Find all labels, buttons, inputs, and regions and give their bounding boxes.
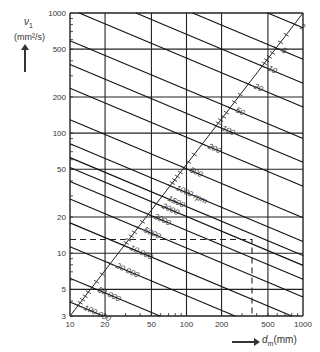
svg-text:200: 200 — [215, 320, 229, 329]
reference-dashed-line — [70, 240, 252, 316]
svg-text:100: 100 — [180, 320, 194, 329]
svg-text:200: 200 — [206, 141, 223, 155]
svg-text:50 000: 50 000 — [96, 285, 122, 304]
svg-text:20 000: 20 000 — [114, 261, 141, 280]
y-axis-label: ν1 — [24, 16, 33, 29]
svg-text:20: 20 — [57, 213, 66, 222]
viscosity-chart: 251020501002005001000 rpm150020003000500… — [0, 0, 320, 352]
y-axis-arrow-icon — [24, 48, 26, 72]
svg-text:2: 2 — [298, 21, 307, 32]
svg-text:500: 500 — [188, 165, 204, 179]
svg-text:5: 5 — [62, 285, 67, 294]
svg-text:5: 5 — [280, 46, 288, 56]
svg-text:1000: 1000 — [48, 9, 66, 18]
svg-text:1000: 1000 — [294, 320, 312, 329]
svg-text:3000: 3000 — [152, 212, 172, 228]
svg-text:20: 20 — [252, 81, 265, 94]
svg-text:500: 500 — [261, 320, 275, 329]
svg-text:50: 50 — [234, 106, 246, 118]
svg-text:10: 10 — [57, 249, 66, 258]
svg-text:10 000: 10 000 — [128, 243, 154, 262]
svg-text:200: 200 — [53, 93, 67, 102]
y-axis-unit: (mm²/s) — [14, 32, 45, 42]
svg-text:50: 50 — [147, 320, 156, 329]
svg-text:100: 100 — [53, 129, 67, 138]
svg-text:3: 3 — [62, 312, 67, 321]
svg-text:50: 50 — [57, 165, 66, 174]
svg-text:5000: 5000 — [142, 225, 162, 241]
svg-text:500: 500 — [53, 45, 67, 54]
x-axis-arrow-icon — [232, 341, 256, 343]
svg-text:100: 100 — [220, 124, 236, 138]
y-axis-arrowhead-icon — [21, 44, 29, 50]
svg-text:20: 20 — [101, 320, 110, 329]
x-axis-arrowhead-icon — [254, 338, 260, 346]
x-axis-label: dm(mm) — [262, 334, 297, 347]
svg-text:10: 10 — [66, 320, 75, 329]
